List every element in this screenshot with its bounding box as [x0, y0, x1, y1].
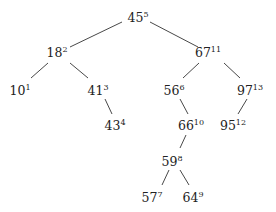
tree-node-95: 9512	[220, 118, 246, 133]
tree-node-97: 9713	[237, 83, 263, 98]
node-key: 64	[183, 190, 199, 205]
node-rank-superscript: 12	[236, 118, 246, 127]
node-rank-superscript: 8	[177, 154, 182, 163]
tree-edge-n97-n95	[238, 99, 247, 114]
tree-edge-n18-n41	[70, 63, 88, 78]
tree-edge-n66-n59	[180, 135, 186, 148]
tree-edge-n56-n66	[180, 99, 188, 114]
node-key: 67	[195, 45, 211, 60]
node-key: 56	[164, 83, 180, 98]
tree-node-66: 6610	[178, 118, 204, 133]
node-rank-superscript: 10	[194, 118, 204, 127]
node-rank-superscript: 3	[103, 83, 108, 92]
tree-edge-n67-n97	[224, 63, 240, 78]
tree-edge-n41-n43	[105, 99, 112, 114]
node-rank-superscript: 1	[25, 83, 30, 92]
node-rank-superscript: 6	[179, 83, 184, 92]
tree-edge-n59-n64	[180, 170, 189, 185]
tree-edge-n18-n10	[31, 63, 48, 78]
node-key: 66	[178, 118, 194, 133]
node-rank-superscript: 13	[253, 83, 263, 92]
node-key: 57	[142, 190, 158, 205]
tree-node-56: 566	[164, 83, 185, 98]
node-key: 95	[220, 118, 236, 133]
tree-node-10: 101	[10, 83, 31, 98]
tree-node-41: 413	[88, 83, 109, 98]
tree-node-64: 649	[183, 190, 204, 205]
tree-nodes: 4551826711101413566971343466109512598577…	[10, 10, 264, 205]
node-key: 43	[105, 118, 121, 133]
node-key: 18	[47, 45, 63, 60]
node-key: 45	[128, 10, 144, 25]
tree-node-67: 6711	[195, 45, 221, 60]
tree-edge-n59-n57	[162, 170, 169, 185]
tree-edge-n45-n67	[150, 22, 198, 47]
tree-node-18: 182	[47, 45, 68, 60]
tree-node-43: 434	[105, 118, 126, 133]
node-key: 59	[162, 154, 178, 169]
tree-node-57: 577	[142, 190, 163, 205]
node-rank-superscript: 11	[211, 45, 221, 54]
tree-node-45: 455	[128, 10, 149, 25]
tree-diagram: 4551826711101413566971343466109512598577…	[0, 0, 276, 212]
node-key: 97	[237, 83, 253, 98]
tree-node-59: 598	[162, 154, 183, 169]
node-rank-superscript: 7	[157, 190, 162, 199]
tree-edge-n67-n56	[183, 63, 199, 78]
node-key: 41	[88, 83, 104, 98]
tree-edge-n45-n18	[70, 22, 122, 47]
node-rank-superscript: 2	[62, 45, 67, 54]
node-rank-superscript: 9	[198, 190, 203, 199]
node-rank-superscript: 4	[120, 118, 125, 127]
node-rank-superscript: 5	[143, 10, 148, 19]
node-key: 10	[10, 83, 26, 98]
